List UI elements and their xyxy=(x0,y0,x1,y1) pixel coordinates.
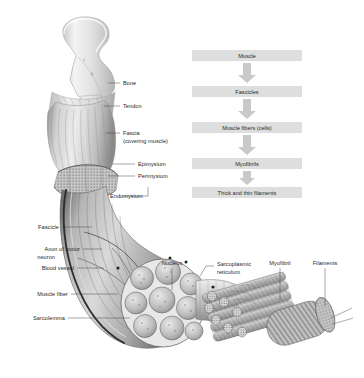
flow-label: Muscle xyxy=(238,53,256,59)
muscle-fiber-circle xyxy=(149,287,175,313)
label-perimysium: Perimysium xyxy=(138,173,168,179)
flow-step-filaments: Thick and thin filaments xyxy=(192,187,302,198)
label-sarcoplasmic-reticulum-line2: reticulum xyxy=(217,269,240,275)
muscle-fiber-circle xyxy=(185,322,203,340)
flow-step-muscle-fibers: Muscle fibers (cells) xyxy=(192,122,302,133)
myofibril-end xyxy=(224,323,233,333)
myofibril-end xyxy=(233,307,242,317)
myofibril-end xyxy=(212,315,221,325)
label-nucleus: Nucleus xyxy=(162,260,183,266)
muscle-fiber-circle xyxy=(160,316,184,340)
label-sarcoplasmic-reticulum-line1: Sarcoplasmic xyxy=(217,261,251,267)
bone-foramen xyxy=(91,72,94,76)
label-tendon: Tendon xyxy=(123,103,142,109)
flow-step-myofibrils: Myofibrils xyxy=(192,158,302,169)
label-blood-vessel: Blood vessel xyxy=(42,265,74,271)
muscle-fiber-circle xyxy=(131,267,154,290)
label-axon-line2: neuron xyxy=(37,254,55,260)
label-fascicle: Fascicle xyxy=(38,224,59,230)
figure-canvas: Bone Tendon Fascia (covering muscle) Epi… xyxy=(0,0,364,378)
flow-label: Fascicles xyxy=(235,89,259,95)
muscle-structure-figure: Bone Tendon Fascia (covering muscle) Epi… xyxy=(0,0,364,378)
flow-step-muscle: Muscle xyxy=(192,50,302,61)
flow-step-fascicles: Fascicles xyxy=(192,86,302,97)
flow-label: Muscle fibers (cells) xyxy=(222,125,272,131)
myofibril-end xyxy=(220,297,229,307)
flow-label: Thick and thin filaments xyxy=(218,190,277,196)
label-axon-line1: Axon of motor xyxy=(45,246,81,252)
muscle-fiber-circle xyxy=(125,292,147,314)
fiber-nucleus xyxy=(211,285,214,288)
label-fascia-sub: (covering muscle) xyxy=(123,138,168,144)
label-muscle-fiber: Muscle fiber xyxy=(37,291,68,297)
bone-foramen-2 xyxy=(83,59,85,62)
myofibril-end xyxy=(208,291,217,301)
label-filaments: Filaments xyxy=(313,260,338,266)
fascicle-bundle-cross-section xyxy=(121,259,205,347)
flow-label: Myofibrils xyxy=(235,161,259,167)
myofibril-end xyxy=(238,327,247,337)
label-sarcolemma: Sarcolemma xyxy=(33,315,66,321)
myofibril-end xyxy=(205,303,214,313)
muscle-fiber-circle xyxy=(134,315,157,338)
label-bone: Bone xyxy=(123,80,136,86)
label-endomysium: Endomysium xyxy=(110,193,143,199)
label-myofibril: Myofibril xyxy=(269,260,290,266)
label-fascia: Fascia xyxy=(123,130,141,136)
label-epimysium: Epimysium xyxy=(138,161,166,167)
